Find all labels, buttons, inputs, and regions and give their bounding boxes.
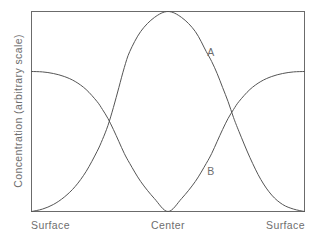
concentration-profile-chart: Concentration (arbitrary scale) Surface … [0, 0, 332, 244]
x-tick-label-left: Surface [31, 219, 70, 231]
curve-label-a: A [207, 46, 214, 58]
chart-figure: Concentration (arbitrary scale) Surface … [0, 0, 332, 244]
y-axis-label: Concentration (arbitrary scale) [12, 34, 24, 188]
x-tick-label-center: Center [151, 219, 185, 231]
curve-label-b: B [207, 165, 214, 177]
chart-background [0, 0, 332, 244]
x-tick-label-right: Surface [266, 219, 305, 231]
